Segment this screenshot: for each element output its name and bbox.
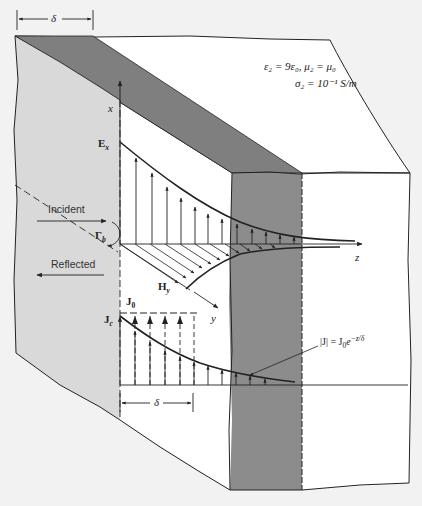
current-density-equation: |J| = J0e−z/δ — [320, 335, 364, 350]
left-face — [14, 36, 120, 420]
hy-label: Hy — [158, 281, 170, 295]
incident-label: Incident — [48, 204, 85, 215]
x-axis-label: x — [108, 103, 113, 114]
y-axis-label: y — [211, 313, 216, 324]
delta-bottom-label: δ — [154, 397, 159, 408]
gamma-b-label: Γb — [95, 230, 106, 244]
z-axis-label: z — [355, 252, 359, 263]
delta-top-label: δ — [51, 13, 56, 24]
jc-label: Jc — [104, 314, 113, 328]
front-dark-band — [229, 173, 302, 490]
medium-params-line2: σ₂ = 10⁻¹ S/m — [295, 78, 357, 89]
ex-label: Ex — [98, 138, 109, 152]
reflected-label: Reflected — [51, 259, 95, 270]
medium-params-line1: ε₂ = 9ε₀, μ₂ = μ₀ — [264, 61, 336, 72]
j0-label: J0 — [126, 296, 135, 310]
